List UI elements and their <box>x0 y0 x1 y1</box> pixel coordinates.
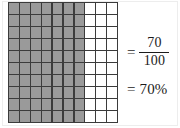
grid-cell <box>20 51 29 62</box>
grid-cell <box>107 75 116 86</box>
grid-cell <box>96 27 105 38</box>
grid-cell <box>96 111 105 122</box>
grid-cell <box>107 3 116 14</box>
grid-cell <box>20 87 29 98</box>
grid-cell <box>64 3 73 14</box>
grid-cell <box>20 3 29 14</box>
grid-cell <box>9 87 18 98</box>
grid-cell <box>85 87 94 98</box>
grid-cell <box>85 39 94 50</box>
grid-cell <box>75 51 84 62</box>
percent-value: 70% <box>139 82 167 97</box>
grid-cell <box>53 51 62 62</box>
grid-cell <box>96 15 105 26</box>
grid-cell <box>85 75 94 86</box>
grid-cell <box>53 3 62 14</box>
grid-cell <box>75 27 84 38</box>
grid-cell <box>107 39 116 50</box>
grid-cell <box>85 15 94 26</box>
grid-cell <box>9 99 18 110</box>
grid-cell <box>96 87 105 98</box>
percent-equals-sign: = <box>127 82 135 97</box>
grid-cell <box>107 51 116 62</box>
grid-cell <box>75 111 84 122</box>
grid-cell <box>75 39 84 50</box>
grid-cell <box>31 3 40 14</box>
grid-cell <box>64 27 73 38</box>
grid-cell <box>85 99 94 110</box>
grid-cell <box>64 39 73 50</box>
grid-cell <box>31 75 40 86</box>
grid-cell <box>96 99 105 110</box>
grid-cell <box>42 111 51 122</box>
grid-cell <box>31 39 40 50</box>
grid-cell <box>85 51 94 62</box>
grid-cell <box>107 63 116 74</box>
grid-cell <box>53 27 62 38</box>
fraction-equation: = 70 100 <box>127 36 169 69</box>
grid-cell <box>9 27 18 38</box>
grid-cell <box>75 3 84 14</box>
grid-cell <box>31 15 40 26</box>
grid-cell <box>20 111 29 122</box>
grid-cell <box>64 99 73 110</box>
grid-cell <box>107 99 116 110</box>
fraction-denominator: 100 <box>144 54 166 69</box>
grid-cell <box>42 75 51 86</box>
hundred-square-container <box>8 2 118 123</box>
grid-cell <box>20 75 29 86</box>
grid-cell <box>53 39 62 50</box>
grid-cell <box>64 75 73 86</box>
grid-cell <box>96 63 105 74</box>
fraction-equals-sign: = <box>127 45 135 60</box>
grid-cell <box>31 63 40 74</box>
grid-cell <box>75 63 84 74</box>
grid-cell <box>42 39 51 50</box>
grid-cell <box>9 51 18 62</box>
grid-cell <box>64 111 73 122</box>
grid-cell <box>42 87 51 98</box>
grid-cell <box>20 99 29 110</box>
grid-cell <box>107 111 116 122</box>
grid-cell <box>9 111 18 122</box>
grid-cell <box>9 75 18 86</box>
grid-cell <box>31 51 40 62</box>
grid-cell <box>31 99 40 110</box>
grid-cell <box>85 3 94 14</box>
percent-equation: = 70% <box>127 82 168 97</box>
grid-cell <box>20 39 29 50</box>
grid-cell <box>9 3 18 14</box>
grid-cell <box>96 3 105 14</box>
grid-cell <box>75 87 84 98</box>
grid-cell <box>9 39 18 50</box>
fraction-70-over-100: 70 100 <box>139 36 169 69</box>
equation-group: = 70 100 = 70% <box>126 0 180 128</box>
percent-model-figure: = 70 100 = 70% <box>0 0 180 128</box>
grid-cell <box>31 111 40 122</box>
grid-cell <box>53 15 62 26</box>
grid-cell <box>96 75 105 86</box>
grid-cell <box>53 75 62 86</box>
grid-cell <box>53 99 62 110</box>
grid-cell <box>31 27 40 38</box>
grid-cell <box>75 15 84 26</box>
grid-cell <box>20 27 29 38</box>
grid-cell <box>85 111 94 122</box>
grid-cell <box>42 15 51 26</box>
grid-cell <box>42 51 51 62</box>
grid-cell <box>85 27 94 38</box>
fraction-numerator: 70 <box>147 36 161 51</box>
grid-cell <box>20 15 29 26</box>
grid-cell <box>64 15 73 26</box>
grid-cell <box>53 87 62 98</box>
grid-cell <box>75 99 84 110</box>
grid-cell <box>42 27 51 38</box>
grid-cell <box>31 87 40 98</box>
grid-cell <box>107 27 116 38</box>
grid-cell <box>64 87 73 98</box>
grid-cell <box>53 111 62 122</box>
grid-cell <box>42 3 51 14</box>
grid-cell <box>96 51 105 62</box>
grid-cell <box>107 87 116 98</box>
grid-cell <box>9 15 18 26</box>
